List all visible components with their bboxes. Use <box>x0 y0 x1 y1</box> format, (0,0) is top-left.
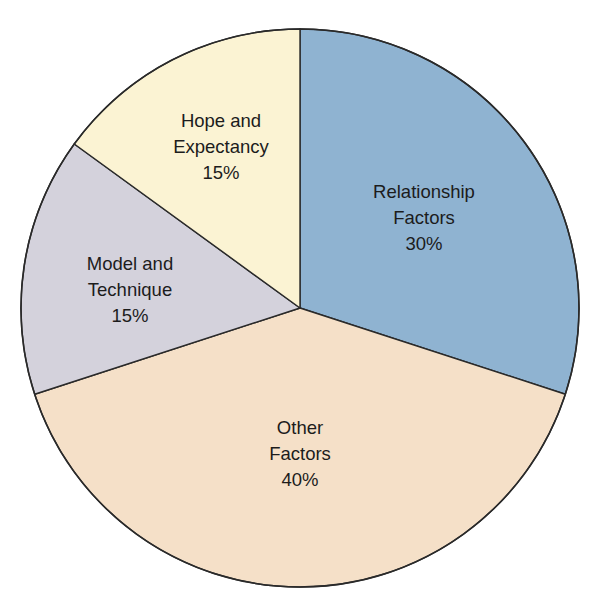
pie-slices <box>21 29 579 587</box>
pie-chart: RelationshipFactors30%OtherFactors40%Mod… <box>0 0 595 599</box>
